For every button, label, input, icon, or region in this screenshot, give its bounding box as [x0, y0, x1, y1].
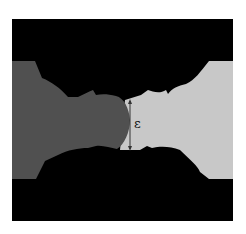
gap-diagram: ε — [0, 0, 246, 234]
gap-epsilon-label: ε — [134, 116, 141, 131]
